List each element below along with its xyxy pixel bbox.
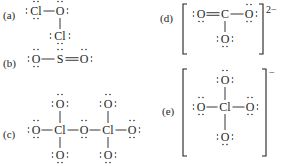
atom-o: O	[32, 52, 41, 66]
atom-o: O	[245, 7, 254, 21]
lone-pair-dot	[193, 15, 195, 17]
atom-o: O	[32, 123, 41, 137]
atom-o: O	[221, 32, 230, 46]
lone-pair-dot	[247, 114, 249, 116]
lone-pair-dot	[115, 105, 117, 107]
structure-d: (d) 2− OCOO	[160, 4, 277, 54]
lone-pair-dot	[57, 94, 59, 96]
lone-pair-dot	[133, 120, 135, 122]
atom-c: C	[221, 7, 229, 21]
lone-pair-dot	[226, 46, 228, 48]
atom-o: O	[197, 100, 206, 114]
lone-pair-dot	[115, 101, 117, 103]
lone-pair-dot	[28, 56, 30, 58]
lone-pair-dot	[33, 49, 35, 51]
lone-pair-dot	[33, 1, 35, 3]
lone-pair-dot	[256, 15, 258, 17]
lone-pair-dot	[250, 4, 252, 6]
atom-o: O	[104, 97, 113, 111]
lone-pair-dot	[61, 162, 63, 164]
atom-cl: Cl	[30, 4, 42, 18]
lone-pair-dot	[217, 81, 219, 83]
lone-pair-dot	[251, 114, 253, 116]
lone-pair-dot	[61, 43, 63, 45]
lone-pair-dot	[202, 97, 204, 99]
lone-pair-dot	[129, 137, 131, 139]
lone-pair-dot	[57, 162, 59, 164]
structure-label: (e)	[162, 105, 175, 118]
lone-pair-dot	[67, 152, 69, 154]
ion-charge: −	[269, 67, 275, 78]
lone-pair-dot	[52, 152, 54, 154]
atom-o: O	[56, 97, 65, 111]
lone-pair-dot	[202, 21, 204, 23]
lone-pair-dot	[26, 8, 28, 10]
atom-o: O	[197, 7, 206, 21]
lone-pair-dot	[100, 101, 102, 103]
atom-o: O	[221, 73, 230, 87]
structure-label: (b)	[3, 57, 16, 70]
lone-pair-dot	[33, 66, 35, 68]
lone-pair-dot	[61, 94, 63, 96]
atom-o: O	[56, 148, 65, 162]
lone-pair-dot	[37, 1, 39, 3]
lone-pair-dot	[139, 131, 141, 133]
lone-pair-dot	[202, 114, 204, 116]
lone-pair-dot	[232, 40, 234, 42]
lone-pair-dot	[28, 131, 30, 133]
structure-c: (c) OClOClOOOOO	[3, 94, 140, 164]
lone-pair-dot	[91, 56, 93, 58]
lone-pair-dot	[57, 49, 59, 51]
lone-pair-dot	[85, 49, 87, 51]
structure-b: (b) OSO	[3, 49, 92, 70]
lone-pair-dot	[217, 36, 219, 38]
lone-pair-dot	[52, 156, 54, 158]
right-bracket	[259, 4, 263, 54]
lewis-structures-figure: (a) ClOCl (b) OSO (c) OClOClOOOOO (d) 2−…	[0, 0, 292, 168]
lone-pair-dot	[217, 40, 219, 42]
lone-pair-dot	[198, 97, 200, 99]
lone-pair-dot	[37, 120, 39, 122]
lone-pair-dot	[226, 144, 228, 146]
lone-pair-dot	[81, 120, 83, 122]
lone-pair-dot	[37, 18, 39, 20]
lone-pair-dot	[57, 1, 59, 3]
lone-pair-dot	[52, 101, 54, 103]
lone-pair-dot	[67, 156, 69, 158]
lone-pair-dot	[37, 49, 39, 51]
lone-pair-dot	[91, 60, 93, 62]
lone-pair-dot	[69, 33, 71, 35]
atom-o: O	[221, 130, 230, 144]
lone-pair-dot	[250, 21, 252, 23]
lone-pair-dot	[67, 8, 69, 10]
lone-pair-dot	[257, 108, 259, 110]
lone-pair-dot	[81, 49, 83, 51]
lone-pair-dot	[100, 152, 102, 154]
lone-pair-dot	[251, 97, 253, 99]
lone-pair-dot	[33, 120, 35, 122]
lone-pair-dot	[105, 162, 107, 164]
lone-pair-dot	[232, 138, 234, 140]
lone-pair-dot	[193, 104, 195, 106]
lone-pair-dot	[115, 152, 117, 154]
structure-e: (e) − OOClOO	[162, 67, 275, 156]
lone-pair-dot	[232, 134, 234, 136]
lone-pair-dot	[198, 21, 200, 23]
lone-pair-dot	[139, 127, 141, 129]
lone-pair-dot	[67, 12, 69, 14]
left-bracket	[183, 69, 187, 156]
lone-pair-dot	[37, 66, 39, 68]
structure-label: (a)	[3, 9, 16, 22]
lone-pair-dot	[129, 120, 131, 122]
lone-pair-dot	[217, 138, 219, 140]
left-bracket	[183, 4, 187, 54]
lone-pair-dot	[61, 49, 63, 51]
lone-pair-dot	[61, 1, 63, 3]
lone-pair-dot	[105, 94, 107, 96]
atom-o: O	[104, 148, 113, 162]
lone-pair-dot	[85, 137, 87, 139]
atom-cl: Cl	[54, 29, 66, 43]
lone-pair-dot	[26, 12, 28, 14]
lone-pair-dot	[33, 137, 35, 139]
lone-pair-dot	[57, 43, 59, 45]
